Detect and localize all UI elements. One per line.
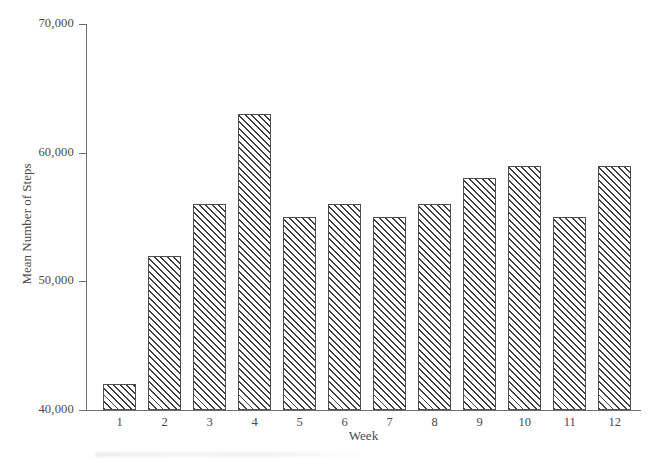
bar xyxy=(148,256,181,410)
y-axis-title: Mean Number of Steps xyxy=(20,124,34,324)
x-tick-label: 1 xyxy=(103,415,136,429)
bar xyxy=(238,114,271,410)
y-tick-mark xyxy=(79,24,86,25)
bar xyxy=(283,217,316,410)
y-tick-mark xyxy=(79,281,86,282)
x-tick-label: 6 xyxy=(328,415,361,429)
x-tick-label: 8 xyxy=(418,415,451,429)
y-tick-mark xyxy=(79,153,86,154)
y-tick-label: 60,000 xyxy=(0,146,74,159)
y-tick-label: 40,000 xyxy=(0,403,74,416)
scan-artifact xyxy=(95,452,365,457)
x-tick-label: 7 xyxy=(373,415,406,429)
x-tick-label: 10 xyxy=(508,415,541,429)
x-tick-label: 12 xyxy=(598,415,631,429)
bar xyxy=(508,166,541,410)
bar xyxy=(553,217,586,410)
bar xyxy=(193,204,226,410)
x-tick-label: 5 xyxy=(283,415,316,429)
x-tick-label: 3 xyxy=(193,415,226,429)
y-tick-label: 50,000 xyxy=(0,274,74,287)
x-tick-label: 2 xyxy=(148,415,181,429)
x-tick-label: 9 xyxy=(463,415,496,429)
x-tick-label: 4 xyxy=(238,415,271,429)
bar-chart: 40,00050,00060,00070,000 Mean Number of … xyxy=(0,0,652,460)
bar xyxy=(373,217,406,410)
bar xyxy=(598,166,631,410)
bar xyxy=(418,204,451,410)
y-axis-line xyxy=(86,24,87,411)
x-tick-label: 11 xyxy=(553,415,586,429)
bar xyxy=(328,204,361,410)
y-tick-mark xyxy=(79,410,86,411)
x-axis-line xyxy=(86,410,641,411)
bar xyxy=(463,178,496,410)
y-tick-label: 70,000 xyxy=(0,17,74,30)
x-axis-title: Week xyxy=(86,429,641,443)
bar xyxy=(103,384,136,410)
